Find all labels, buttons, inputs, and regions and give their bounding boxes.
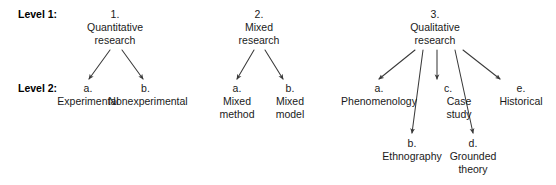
node-enumerator: b. bbox=[103, 82, 187, 95]
node-case-study: c. Case study bbox=[446, 82, 471, 121]
node-label: Mixed model bbox=[276, 95, 305, 121]
research-typology-diagram: Level 1: Level 2: 1. Quantitative resear… bbox=[0, 0, 556, 185]
node-nonexperimental: b. Nonexperimental bbox=[108, 82, 187, 108]
node-label: Grounded theory bbox=[450, 150, 497, 176]
edge-mixed-to-mixed-model bbox=[265, 50, 283, 79]
node-grounded-theory: d. Grounded theory bbox=[450, 137, 497, 176]
node-label: Ethnography bbox=[382, 150, 442, 163]
node-enumerator: b. bbox=[276, 82, 305, 95]
node-mixed-method: a. Mixed method bbox=[219, 82, 254, 121]
node-enumerator: e. bbox=[499, 82, 542, 95]
node-enumerator: c. bbox=[424, 82, 471, 95]
node-enumerator: 1. bbox=[87, 8, 143, 21]
node-enumerator: a. bbox=[341, 82, 417, 95]
node-label: Case study bbox=[446, 95, 471, 121]
node-enumerator: a. bbox=[219, 82, 254, 95]
edge-qualitative-to-historical bbox=[463, 50, 500, 79]
node-phenomenology: a. Phenomenology bbox=[341, 82, 417, 108]
node-label: Mixed research bbox=[239, 21, 280, 47]
node-quantitative-research: 1. Quantitative research bbox=[87, 8, 143, 47]
node-enumerator: 2. bbox=[239, 8, 280, 21]
node-enumerator: d. bbox=[450, 137, 497, 150]
node-ethnography: b. Ethnography bbox=[382, 137, 442, 163]
node-label: Qualitative research bbox=[410, 21, 460, 47]
node-label: Mixed method bbox=[219, 95, 254, 121]
edge-mixed-to-mixed-method bbox=[237, 50, 254, 79]
node-enumerator: 3. bbox=[410, 8, 460, 21]
level-2-row-label: Level 2: bbox=[18, 82, 57, 95]
node-qualitative-research: 3. Qualitative research bbox=[410, 8, 460, 47]
node-historical: e. Historical bbox=[499, 82, 542, 108]
node-label: Nonexperimental bbox=[108, 95, 187, 108]
node-label: Phenomenology bbox=[341, 95, 417, 108]
edge-qualitative-to-phenomenology bbox=[379, 50, 415, 79]
level-1-row-label: Level 1: bbox=[18, 8, 57, 21]
node-enumerator: b. bbox=[382, 137, 442, 150]
node-mixed-model: b. Mixed model bbox=[276, 82, 305, 121]
edge-quantitative-to-nonexperimental bbox=[122, 50, 143, 79]
edge-quantitative-to-experimental bbox=[89, 50, 110, 79]
node-label: Quantitative research bbox=[87, 21, 143, 47]
node-label: Historical bbox=[499, 95, 542, 108]
node-mixed-research: 2. Mixed research bbox=[239, 8, 280, 47]
